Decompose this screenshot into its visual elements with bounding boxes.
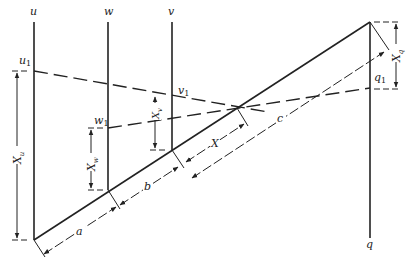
label-v1: v1 <box>178 84 189 98</box>
label-x: X <box>210 137 220 150</box>
label-v: v <box>168 5 175 18</box>
label-b: b <box>144 180 151 193</box>
diagram-svg: u w v q u1 w1 v1 q1 Xu Xw Xv Xq a b X c <box>0 0 408 264</box>
label-q1: q1 <box>374 71 386 85</box>
label-w: w <box>104 5 114 18</box>
index-line-w1 <box>108 88 370 128</box>
label-c: c <box>277 112 283 125</box>
label-w1: w1 <box>94 114 109 128</box>
label-u1: u1 <box>19 54 31 68</box>
tick-marks <box>12 22 400 240</box>
label-u: u <box>30 5 37 18</box>
label-a: a <box>76 225 83 238</box>
dim-c <box>192 52 384 178</box>
nomogram-diagram: u w v q u1 w1 v1 q1 Xu Xw Xv Xq a b X c <box>0 0 408 264</box>
base-diagonal <box>34 22 370 240</box>
label-q: q <box>366 238 373 251</box>
